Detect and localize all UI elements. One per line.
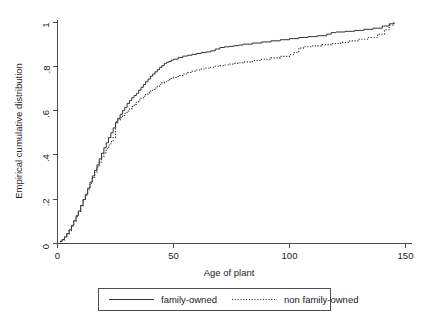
x-tick-label: 0: [55, 250, 60, 261]
x-tick-label: 50: [168, 250, 179, 261]
y-axis-title: Empirical cumulative distribution: [13, 63, 24, 199]
y-tick-label: 1: [41, 23, 52, 28]
chart-figure: 0.2.4.6.81 Empirical cumulative distribu…: [0, 0, 427, 319]
x-axis-title: Age of plant: [204, 267, 255, 278]
ecdf-chart: 0.2.4.6.81 Empirical cumulative distribu…: [0, 0, 427, 319]
x-tick-label: 150: [398, 250, 414, 261]
y-tick-label: .6: [41, 110, 52, 118]
y-tick-label: .4: [41, 154, 52, 162]
y-tick-label: .2: [41, 198, 52, 206]
y-tick-label: .8: [41, 66, 52, 74]
y-tick-label: 0: [41, 244, 52, 249]
legend-label-family-owned: family-owned: [161, 294, 217, 305]
legend-label-non-family-owned: non family-owned: [284, 294, 358, 305]
x-tick-label: 100: [282, 250, 298, 261]
